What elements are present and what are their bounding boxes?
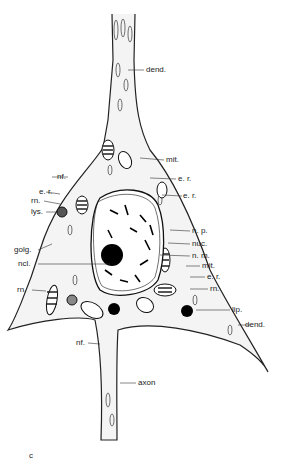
label-mit-top: mit. (166, 156, 179, 164)
mitochondrion (157, 182, 167, 198)
label-dend-top: dend. (146, 66, 166, 74)
label-mit-right: mit. (202, 262, 215, 270)
label-axon: axon (138, 379, 155, 387)
panel-letter: c (29, 452, 33, 460)
label-er-right3: e. r. (207, 273, 220, 281)
label-er-right1: e. r. (178, 175, 191, 183)
label-er-left: e. r. (39, 188, 52, 196)
label-rn-right: rn. (210, 285, 219, 293)
nucleus (91, 190, 164, 295)
lipid-droplet (108, 303, 120, 315)
lysosome (67, 295, 77, 305)
label-er-right2: e. r. (183, 192, 196, 200)
label-rn-left-bottom: rn. (17, 286, 26, 294)
label-nuc: nuc. (192, 240, 207, 248)
label-nf-bottom: nf. (76, 339, 85, 347)
label-np: n. p. (192, 227, 208, 235)
lysosome (57, 207, 67, 217)
label-ncl: ncl. (18, 260, 30, 268)
mitochondrion (154, 284, 176, 296)
lipid-droplet (181, 305, 193, 317)
label-nf-top: nf. (57, 173, 66, 181)
label-lip: lip. (232, 306, 242, 314)
nucleolus (101, 244, 123, 266)
neuron-drawing (0, 0, 289, 463)
label-nm: n. m. (192, 252, 210, 260)
label-lys: lys. (31, 208, 43, 216)
label-dend-right: dend. (245, 321, 265, 329)
label-golg: golg. (14, 246, 31, 254)
label-rn-left-top: rn. (31, 197, 40, 205)
